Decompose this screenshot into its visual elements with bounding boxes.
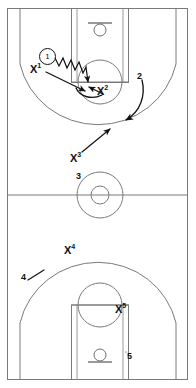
court-svg [0, 0, 196, 388]
player-marker-defense-x2[interactable]: X2 [97, 86, 108, 97]
player-marker-defense-x1[interactable]: X1 [30, 64, 41, 75]
lane-top [72, 9, 129, 83]
basketball-court-diagram: 1 X1 X2 X3 X4 X5 2 3 4 5 [0, 0, 196, 388]
leader-line-callout-4 [28, 270, 44, 280]
player-superscript-defense-x5: 5 [122, 302, 126, 309]
movement-arrow-x3 [82, 129, 110, 152]
player-marker-defense-x3[interactable]: X3 [70, 153, 81, 164]
player-superscript-defense-x2: 2 [104, 84, 108, 91]
callout-label-4: 4 [21, 273, 26, 282]
rim-top [94, 24, 106, 36]
callout-label-3: 3 [76, 172, 81, 181]
three-point-line-top [20, 9, 176, 125]
player-marker-defense-x5[interactable]: X5 [115, 304, 126, 315]
player-superscript-defense-x4: 4 [71, 243, 75, 250]
player-superscript-defense-x1: 1 [37, 62, 41, 69]
player-marker-offense-1[interactable]: 1 [39, 48, 56, 65]
player-superscript-defense-x3: 3 [77, 151, 81, 158]
lane-bottom [72, 305, 129, 380]
callout-label-2: 2 [137, 72, 142, 81]
callout-label-5: 5 [127, 352, 132, 361]
player-label-offense-1: 1 [40, 49, 55, 64]
movement-arrow-callout-2 [126, 80, 143, 120]
rim-bottom [94, 349, 106, 361]
player-marker-defense-x4[interactable]: X4 [64, 245, 75, 256]
